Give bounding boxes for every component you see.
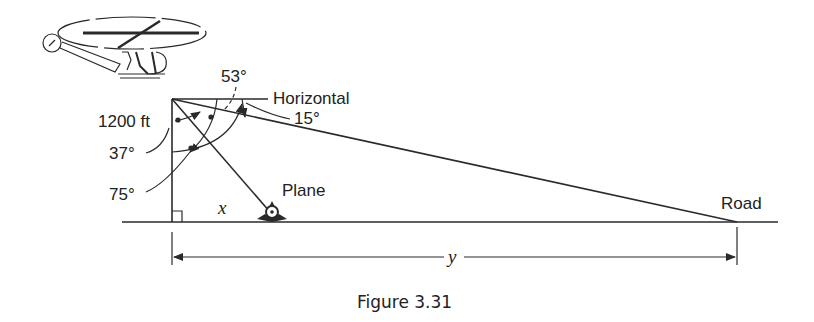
angle-37-label: 37° (109, 144, 135, 163)
x-label: x (217, 197, 227, 218)
figure-caption: Figure 3.31 (357, 292, 452, 312)
horizontal-label: Horizontal (273, 89, 350, 108)
angle-15-label: 15° (294, 109, 320, 128)
sightline-road (172, 99, 737, 222)
plane-label: Plane (282, 181, 325, 200)
trig-figure: Horizontal 53° 15° 1200 ft 37° 75° x Pla… (0, 0, 814, 322)
helicopter-icon (43, 17, 206, 78)
height-label: 1200 ft (98, 112, 150, 131)
plane-icon (257, 201, 287, 222)
y-label: y (446, 246, 457, 267)
right-angle-mark (172, 211, 182, 222)
angle-75-label: 75° (109, 185, 135, 204)
road-label: Road (721, 194, 762, 213)
angle-53-label: 53° (221, 67, 247, 86)
